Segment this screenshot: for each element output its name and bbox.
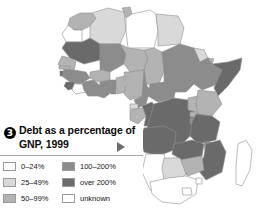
region-libya[interactable] <box>126 10 158 48</box>
legend-swatch-50-99 <box>3 194 16 203</box>
legend-swatch-25-49 <box>3 178 16 187</box>
caption-divider <box>0 155 143 156</box>
region-swaziland[interactable] <box>196 178 202 184</box>
legend-label-100-200: 100–200% <box>80 162 116 171</box>
legend-column-right: 100–200% over 200% unknown <box>62 158 116 206</box>
region-cote-divoire[interactable] <box>82 80 100 96</box>
region-angola[interactable] <box>140 126 176 156</box>
legend-swatch-over-200 <box>62 178 75 187</box>
caption-header: 3 Debt as a percentage of GNP, 1999 <box>0 124 143 156</box>
legend-item-50-99[interactable]: 50–99% <box>3 190 49 206</box>
legend-label-25-49: 25–49% <box>21 178 49 187</box>
region-lesotho[interactable] <box>182 188 192 195</box>
legend-swatch-100-200 <box>62 162 75 171</box>
region-tanzania[interactable] <box>190 114 220 144</box>
region-gambia[interactable] <box>59 66 70 69</box>
region-togo[interactable] <box>110 80 116 94</box>
legend-label-50-99: 50–99% <box>21 194 49 203</box>
region-madagascar[interactable] <box>236 140 252 186</box>
legend-item-over-200[interactable]: over 200% <box>62 174 116 190</box>
legend-item-unknown[interactable]: unknown <box>62 190 116 206</box>
legend-item-25-49[interactable]: 25–49% <box>3 174 49 190</box>
play-triangle-icon[interactable] <box>117 142 125 152</box>
legend-swatch-unknown <box>62 194 75 203</box>
legend-label-0-24: 0–24% <box>21 162 44 171</box>
figure-number-badge: 3 <box>4 127 16 139</box>
legend-item-0-24[interactable]: 0–24% <box>3 158 49 174</box>
region-egypt[interactable] <box>156 14 184 46</box>
figure-debt-gnp-map: 3 Debt as a percentage of GNP, 1999 0–24… <box>0 0 269 208</box>
region-mali[interactable] <box>100 44 126 72</box>
legend-label-unknown: unknown <box>80 194 110 203</box>
legend-column-left: 0–24% 25–49% 50–99% <box>3 158 49 206</box>
legend-label-over-200: over 200% <box>80 178 116 187</box>
legend-swatch-0-24 <box>3 162 16 171</box>
caption-block: 3 Debt as a percentage of GNP, 1999 0–24… <box>0 124 143 208</box>
region-chad[interactable] <box>144 48 164 86</box>
region-equatorial-guinea[interactable] <box>130 104 138 109</box>
region-algeria[interactable] <box>90 8 126 44</box>
legend-item-100-200[interactable]: 100–200% <box>62 158 116 174</box>
